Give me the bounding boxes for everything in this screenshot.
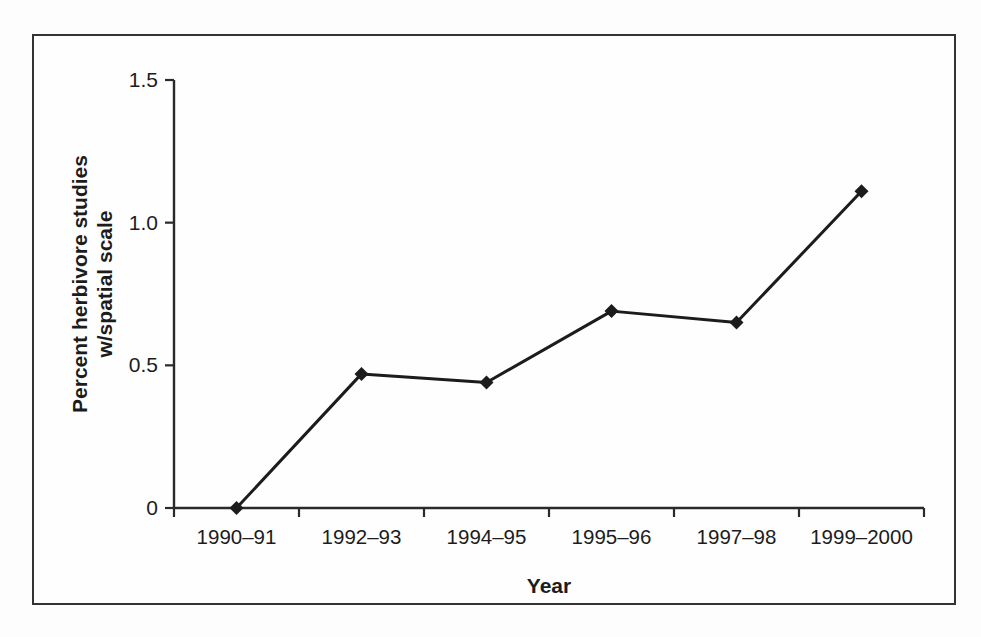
- x-tick-label: 1995–96: [572, 525, 652, 548]
- y-tick-label: 0.5: [129, 353, 158, 376]
- x-tick-label: 1999–2000: [810, 525, 913, 548]
- x-tick-label: 1992–93: [322, 525, 402, 548]
- x-tick-label: 1997–98: [697, 525, 777, 548]
- figure-frame: 00.51.01.51990–911992–931994–951995–9619…: [32, 34, 956, 605]
- y-tick-label: 1.0: [129, 211, 158, 234]
- line-chart: 00.51.01.51990–911992–931994–951995–9619…: [34, 36, 952, 601]
- x-tick-label: 1994–95: [447, 525, 527, 548]
- x-axis-title: Year: [174, 574, 924, 598]
- data-point-marker: [480, 375, 494, 389]
- y-tick-label: 0: [146, 496, 158, 519]
- y-tick-label: 1.5: [129, 68, 158, 91]
- data-point-marker: [605, 304, 619, 318]
- x-tick-label: 1990–91: [197, 525, 277, 548]
- data-line: [237, 191, 862, 508]
- axis-lines: [174, 80, 924, 508]
